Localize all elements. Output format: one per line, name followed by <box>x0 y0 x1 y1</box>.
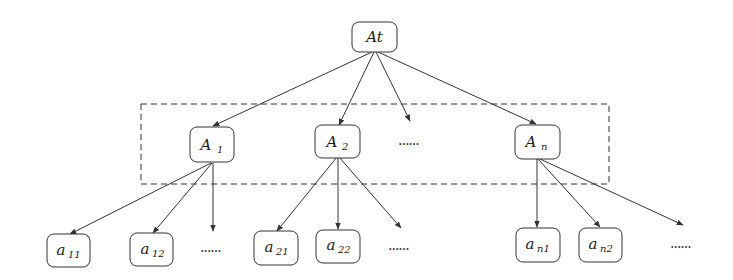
level2-ellipsis-3: ...... <box>670 235 691 251</box>
svg-text:A: A <box>524 133 537 151</box>
node-root-label: At <box>364 28 384 46</box>
node-an2: a n2 <box>579 228 622 262</box>
svg-text:2: 2 <box>341 141 348 152</box>
node-a1: A 1 <box>190 127 234 162</box>
tree-diagram: At A 1 A 2 ...... A n a 11 a 12 ...... a… <box>0 0 733 280</box>
level2-ellipsis-1: ...... <box>200 239 221 255</box>
a1-edges <box>70 163 213 234</box>
svg-text:22: 22 <box>337 244 351 255</box>
level2-ellipsis-2: ...... <box>388 237 409 253</box>
svg-text:a: a <box>265 238 274 256</box>
a2-edges <box>277 157 401 231</box>
root-edges <box>213 52 536 126</box>
node-an: A n <box>515 125 560 159</box>
node-a2: A 2 <box>315 125 360 158</box>
svg-text:12: 12 <box>152 248 165 259</box>
svg-text:a: a <box>141 240 150 258</box>
svg-text:a: a <box>589 235 598 253</box>
svg-text:11: 11 <box>68 249 81 260</box>
node-a11: a 11 <box>47 234 90 267</box>
svg-text:a: a <box>526 235 535 253</box>
node-a12: a 12 <box>130 233 173 266</box>
svg-text:a: a <box>327 236 336 254</box>
svg-text:n1: n1 <box>537 243 550 254</box>
node-an1: a n1 <box>516 228 560 262</box>
level1-ellipsis: ...... <box>398 132 419 148</box>
svg-text:A: A <box>199 136 212 154</box>
svg-text:n: n <box>541 141 547 152</box>
an-edges <box>537 159 683 227</box>
svg-text:A: A <box>325 133 338 151</box>
svg-text:a: a <box>57 241 66 259</box>
node-root: At <box>352 22 397 52</box>
node-a21: a 21 <box>254 231 298 265</box>
svg-text:n2: n2 <box>600 243 613 254</box>
svg-text:1: 1 <box>217 144 223 155</box>
svg-text:21: 21 <box>275 246 289 257</box>
node-a22: a 22 <box>316 230 360 263</box>
